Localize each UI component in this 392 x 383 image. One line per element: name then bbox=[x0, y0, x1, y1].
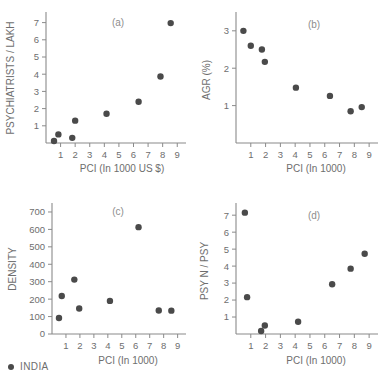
svg-text:200: 200 bbox=[29, 294, 45, 305]
svg-text:5: 5 bbox=[224, 244, 229, 255]
legend-marker-icon bbox=[8, 364, 14, 370]
svg-text:5: 5 bbox=[307, 340, 312, 351]
svg-text:PCI (In 1000 US $): PCI (In 1000 US $) bbox=[80, 163, 164, 174]
panel-a-plot: 1234567123456789(a)PCI (In 1000 US $)PSY… bbox=[0, 0, 196, 191]
svg-text:4: 4 bbox=[293, 149, 298, 160]
svg-text:1: 1 bbox=[224, 100, 229, 111]
svg-text:AGR (%): AGR (%) bbox=[201, 60, 212, 100]
svg-text:PSY N / PSY: PSY N / PSY bbox=[199, 242, 210, 301]
svg-text:(a): (a) bbox=[112, 17, 124, 28]
svg-text:PCI (In 1000): PCI (In 1000) bbox=[98, 355, 157, 366]
svg-text:3: 3 bbox=[278, 340, 283, 351]
svg-text:100: 100 bbox=[29, 311, 45, 322]
svg-text:7: 7 bbox=[34, 17, 39, 28]
svg-text:2: 2 bbox=[73, 149, 78, 160]
svg-text:5: 5 bbox=[119, 340, 124, 351]
svg-text:2: 2 bbox=[224, 294, 229, 305]
panel-b-plot: 123123456789(b)PCI (In 1000)AGR (%) bbox=[196, 0, 392, 191]
svg-text:6: 6 bbox=[224, 227, 229, 238]
panel-d: 1234567123456789(d)PCI (In 1000)PSY N / … bbox=[196, 191, 392, 383]
svg-text:9: 9 bbox=[175, 340, 180, 351]
svg-text:4: 4 bbox=[34, 69, 39, 80]
svg-text:700: 700 bbox=[29, 206, 45, 217]
panel-b: 123123456789(b)PCI (In 1000)AGR (%) bbox=[196, 0, 392, 191]
svg-text:8: 8 bbox=[352, 340, 357, 351]
svg-text:4: 4 bbox=[102, 149, 107, 160]
svg-text:5: 5 bbox=[116, 149, 121, 160]
svg-text:(b): (b) bbox=[308, 19, 320, 30]
svg-text:3: 3 bbox=[224, 277, 229, 288]
svg-text:7: 7 bbox=[145, 149, 150, 160]
svg-text:2: 2 bbox=[34, 103, 39, 114]
svg-text:3: 3 bbox=[34, 86, 39, 97]
svg-text:1: 1 bbox=[248, 340, 253, 351]
svg-text:PSYCHIATRISTS / LAKH: PSYCHIATRISTS / LAKH bbox=[5, 21, 16, 134]
svg-text:0: 0 bbox=[40, 328, 45, 339]
svg-text:400: 400 bbox=[29, 259, 45, 270]
svg-text:9: 9 bbox=[175, 149, 180, 160]
svg-text:6: 6 bbox=[34, 34, 39, 45]
svg-text:600: 600 bbox=[29, 224, 45, 235]
legend: INDIA bbox=[8, 361, 49, 372]
svg-text:6: 6 bbox=[133, 340, 138, 351]
svg-text:2: 2 bbox=[263, 149, 268, 160]
svg-text:7: 7 bbox=[224, 210, 229, 221]
panel-a: 1234567123456789(a)PCI (In 1000 US $)PSY… bbox=[0, 0, 196, 191]
panel-c: 0100200300400500600700123456789(c)PCI (I… bbox=[0, 191, 196, 383]
svg-text:1: 1 bbox=[63, 340, 68, 351]
svg-text:(d): (d) bbox=[308, 210, 320, 221]
svg-text:4: 4 bbox=[105, 340, 110, 351]
panel-c-plot: 0100200300400500600700123456789(c)PCI (I… bbox=[0, 191, 196, 383]
legend-label: INDIA bbox=[20, 361, 49, 372]
svg-text:7: 7 bbox=[147, 340, 152, 351]
svg-text:7: 7 bbox=[337, 340, 342, 351]
svg-text:6: 6 bbox=[322, 149, 327, 160]
scatter-plot-figure: 1234567123456789(a)PCI (In 1000 US $)PSY… bbox=[0, 0, 392, 383]
svg-text:300: 300 bbox=[29, 276, 45, 287]
svg-text:8: 8 bbox=[352, 149, 357, 160]
svg-text:PCI (In 1000): PCI (In 1000) bbox=[286, 355, 345, 366]
panel-d-plot: 1234567123456789(d)PCI (In 1000)PSY N / … bbox=[196, 191, 392, 383]
svg-text:1: 1 bbox=[224, 311, 229, 322]
svg-text:5: 5 bbox=[34, 51, 39, 62]
svg-text:8: 8 bbox=[160, 149, 165, 160]
svg-text:(c): (c) bbox=[112, 206, 124, 217]
svg-text:3: 3 bbox=[278, 149, 283, 160]
svg-text:9: 9 bbox=[366, 149, 371, 160]
svg-text:3: 3 bbox=[87, 149, 92, 160]
svg-text:500: 500 bbox=[29, 241, 45, 252]
svg-text:4: 4 bbox=[293, 340, 298, 351]
svg-text:2: 2 bbox=[263, 340, 268, 351]
svg-text:2: 2 bbox=[77, 340, 82, 351]
svg-text:2: 2 bbox=[224, 63, 229, 74]
svg-text:3: 3 bbox=[224, 25, 229, 36]
svg-text:3: 3 bbox=[91, 340, 96, 351]
svg-text:5: 5 bbox=[307, 149, 312, 160]
svg-text:4: 4 bbox=[224, 261, 229, 272]
svg-text:6: 6 bbox=[322, 340, 327, 351]
svg-text:9: 9 bbox=[366, 340, 371, 351]
svg-text:1: 1 bbox=[58, 149, 63, 160]
svg-text:1: 1 bbox=[34, 120, 39, 131]
svg-text:6: 6 bbox=[131, 149, 136, 160]
svg-text:1: 1 bbox=[248, 149, 253, 160]
svg-text:7: 7 bbox=[337, 149, 342, 160]
svg-text:DENSITY: DENSITY bbox=[7, 247, 18, 291]
svg-text:8: 8 bbox=[161, 340, 166, 351]
svg-text:PCI (In 1000): PCI (In 1000) bbox=[286, 163, 345, 174]
